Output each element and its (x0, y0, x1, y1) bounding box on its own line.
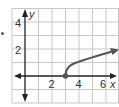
tick-x-2: 2 (49, 78, 55, 90)
y-axis (22, 9, 28, 102)
tick-y-4: 4 (15, 17, 21, 29)
curve-start-point (63, 73, 69, 79)
tick-y-2: 2 (15, 44, 21, 56)
x-axis-label: x (109, 78, 116, 90)
y-axis-up-arrow-icon (22, 9, 28, 17)
graph: 2 4 6 x 4 2 y (0, 0, 119, 107)
function-curve (66, 52, 113, 77)
x-axis-left-arrow-icon (14, 73, 21, 79)
y-axis-label: y (28, 8, 36, 20)
tick-x-6: 6 (100, 78, 106, 90)
y-axis-down-arrow-icon (22, 94, 28, 102)
tick-x-4: 4 (76, 78, 82, 90)
